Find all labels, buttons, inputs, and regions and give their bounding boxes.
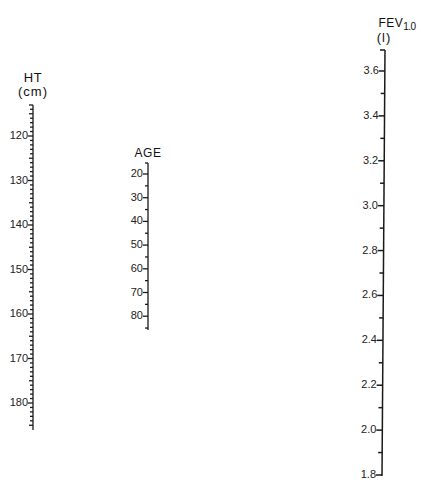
age-tick-label: 60 bbox=[131, 262, 143, 274]
ht-tick-label: 140 bbox=[10, 218, 28, 230]
fev-title-main: FEV bbox=[378, 16, 403, 30]
ht-unit: (cm) bbox=[12, 84, 54, 99]
ht-scale bbox=[28, 105, 33, 430]
fev-title-subscript: 1.0 bbox=[403, 21, 415, 32]
nomogram-diagram bbox=[0, 0, 421, 487]
ht-title: HT bbox=[18, 70, 48, 85]
age-ticks bbox=[143, 174, 148, 328]
age-tick-label: 20 bbox=[131, 167, 143, 179]
age-tick-label: 50 bbox=[131, 238, 143, 250]
fev-tick-label: 2.0 bbox=[361, 423, 376, 435]
fev-unit: (l) bbox=[369, 30, 399, 45]
ht-tick-label: 150 bbox=[10, 263, 28, 275]
fev-tick-label: 2.6 bbox=[362, 288, 377, 300]
fev-tick-label: 3.0 bbox=[363, 199, 378, 211]
ht-tick-label: 130 bbox=[10, 174, 28, 186]
age-tick-label: 70 bbox=[131, 286, 143, 298]
ht-tick-label: 180 bbox=[10, 396, 28, 408]
fev-tick-label: 3.6 bbox=[364, 64, 379, 76]
age-tick-label: 30 bbox=[131, 191, 143, 203]
ht-tick-label: 160 bbox=[10, 307, 28, 319]
fev-axis-line bbox=[382, 50, 385, 476]
age-tick-label: 40 bbox=[131, 214, 143, 226]
age-title: AGE bbox=[128, 146, 168, 160]
fev-tick-label: 2.8 bbox=[362, 244, 377, 256]
age-tick-label: 80 bbox=[131, 309, 143, 321]
ht-ticks bbox=[28, 109, 33, 425]
fev-tick-label: 2.4 bbox=[362, 333, 377, 345]
ht-tick-label: 170 bbox=[10, 352, 28, 364]
fev-tick-label: 3.4 bbox=[363, 109, 378, 121]
fev-tick-label: 1.8 bbox=[361, 468, 376, 480]
fev-tick-label: 2.2 bbox=[361, 378, 376, 390]
fev-tick-label: 3.2 bbox=[363, 154, 378, 166]
age-scale bbox=[143, 163, 148, 330]
ht-tick-label: 120 bbox=[10, 129, 28, 141]
